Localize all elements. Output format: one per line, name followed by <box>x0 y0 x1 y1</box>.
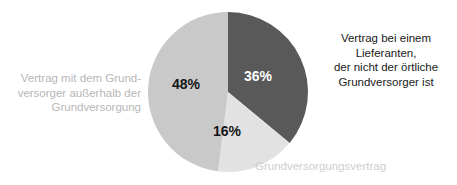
pie-category-label-grundversorgungsvertrag: Grundversorgungsvertrag <box>255 159 451 174</box>
pie-value-label-48: 48% <box>172 77 200 91</box>
pie-category-label-grundversorger-ausserhalb: Vertrag mit dem Grund- versorger außerha… <box>8 71 141 115</box>
pie-category-label-alternativer-lieferant: Vertrag bei einem Lieferanten, der nicht… <box>315 31 457 89</box>
pie-slice-group <box>148 12 308 172</box>
pie-value-label-16: 16% <box>213 124 241 138</box>
pie-chart-figure: 36% 48% 16% Vertrag bei einem Lieferante… <box>0 0 457 185</box>
pie-value-label-36: 36% <box>244 69 272 83</box>
